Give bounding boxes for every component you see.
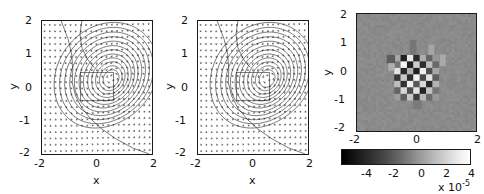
panel-1-vector-field <box>42 21 152 154</box>
panel-2-xtick-0: 0 <box>249 157 256 170</box>
figure-root: y 2 1 0 -1 -2 -2 0 2 x y 2 1 0 <box>0 0 484 194</box>
panel-1-xlabel: x <box>93 174 100 187</box>
panel-1-ytick-2: 2 <box>25 14 32 27</box>
colorbar-tick-0: 0 <box>418 167 425 180</box>
panel-2-xlabel: x <box>249 174 256 187</box>
colorbar-exponent: x 10-5 <box>438 179 470 194</box>
panel-2-ylabel: y <box>163 80 176 94</box>
panel-1-ytick-0: 0 <box>25 81 32 94</box>
colorbar <box>341 149 471 165</box>
panel-2-xtick-m2: -2 <box>190 157 201 170</box>
panel-3-xtick-m2: -2 <box>349 133 360 146</box>
panel-1-plot-area <box>41 20 153 155</box>
panel-2-ytick-2: 2 <box>181 14 188 27</box>
panel-3-ytick-2: 2 <box>340 8 347 21</box>
panel-1-xtick-m2: -2 <box>34 157 45 170</box>
panel-3-residual-map <box>357 14 476 131</box>
panel-3-xtick-0: 0 <box>413 133 420 146</box>
panel-3-ytick-m1: -1 <box>334 93 345 106</box>
panel-3-image <box>356 13 477 132</box>
colorbar-exponent-power: -5 <box>462 179 470 188</box>
panel-1-ylabel: y <box>7 80 20 94</box>
panel-2-ytick-m1: -1 <box>175 114 186 127</box>
panel-3-ytick-0: 0 <box>340 65 347 78</box>
panel-1-xtick-0: 0 <box>93 157 100 170</box>
panel-2-ytick-0: 0 <box>181 81 188 94</box>
panel-1-ytick-m2: -2 <box>19 146 30 159</box>
panel-1-xtick-2: 2 <box>150 157 157 170</box>
panel-3-xtick-2: 2 <box>474 133 481 146</box>
panel-1-ytick-m1: -1 <box>19 114 30 127</box>
panel-2-xtick-2: 2 <box>306 157 313 170</box>
colorbar-tick-m4: -4 <box>361 167 372 180</box>
colorbar-exponent-base: x 10 <box>438 181 462 194</box>
panel-2-ytick-m2: -2 <box>175 146 186 159</box>
panel-2-vector-field <box>198 21 308 154</box>
panel-3-ytick-1: 1 <box>340 36 347 49</box>
panel-2-ytick-1: 1 <box>181 47 188 60</box>
colorbar-tick-m2: -2 <box>388 167 399 180</box>
panel-2-plot-area <box>197 20 309 155</box>
panel-3-ytick-m2: -2 <box>334 121 345 134</box>
panel-1-ytick-1: 1 <box>25 47 32 60</box>
panel-3-ylabel: y <box>321 66 334 80</box>
